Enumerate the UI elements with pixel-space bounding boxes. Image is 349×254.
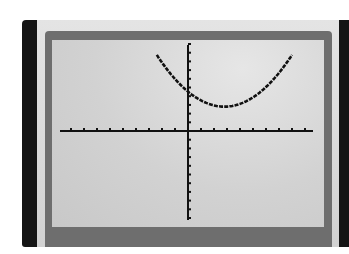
parabola-curve	[157, 55, 292, 107]
graph-plot	[0, 0, 349, 254]
axes	[60, 44, 313, 220]
